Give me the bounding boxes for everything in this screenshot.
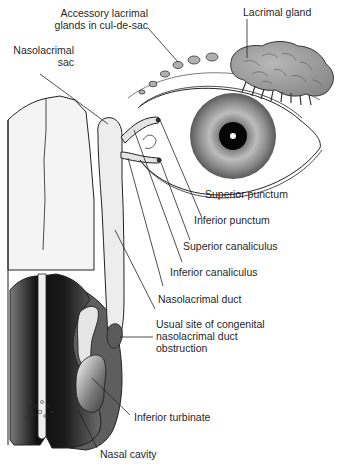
label-line: obstruction — [156, 342, 265, 354]
label-line: sac — [0, 56, 74, 68]
label-line: Nasal cavity — [100, 448, 157, 460]
label-accessory-lacrimal-glands: Accessory lacrimal glands in cul-de-sac — [48, 7, 148, 31]
label-line: Accessory lacrimal — [48, 7, 148, 19]
label-inferior-turbinate: Inferior turbinate — [134, 411, 210, 423]
label-line: Inferior canaliculus — [170, 266, 258, 278]
label-line: Inferior punctum — [194, 214, 270, 226]
label-line: Inferior turbinate — [134, 411, 210, 423]
label-superior-punctum: Superior punctum — [205, 188, 288, 200]
label-line: Superior punctum — [205, 188, 288, 200]
label-line: Nasolacrimal — [0, 44, 74, 56]
label-nasolacrimal-duct: Nasolacrimal duct — [158, 293, 241, 305]
label-superior-canaliculus: Superior canaliculus — [183, 240, 278, 252]
canaliculi — [121, 117, 161, 163]
nasal-cavity — [10, 274, 122, 450]
nasal-bone — [8, 96, 94, 270]
label-lacrimal-gland: Lacrimal gland — [243, 6, 311, 18]
label-inferior-canaliculus: Inferior canaliculus — [170, 266, 258, 278]
label-line: Usual site of congenital — [156, 318, 265, 330]
label-inferior-punctum: Inferior punctum — [194, 214, 270, 226]
label-obstruction-site: Usual site of congenital nasolacrimal du… — [156, 318, 265, 354]
label-line: Superior canaliculus — [183, 240, 278, 252]
label-nasal-cavity: Nasal cavity — [100, 448, 157, 460]
label-line: nasolacrimal duct — [156, 330, 265, 342]
label-line: Nasolacrimal duct — [158, 293, 241, 305]
label-line: glands in cul-de-sac — [48, 19, 148, 31]
label-nasolacrimal-sac: Nasolacrimal sac — [0, 44, 74, 68]
label-line: Lacrimal gland — [243, 6, 311, 18]
lacrimal-anatomy-diagram — [0, 0, 351, 468]
